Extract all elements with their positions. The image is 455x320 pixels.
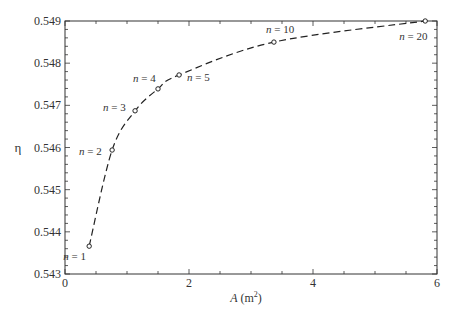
data-point-marker (87, 244, 91, 248)
point-annotation: n = 4 (133, 72, 156, 84)
x-tick-label: 0 (62, 276, 68, 290)
x-tick-label: 6 (434, 276, 440, 290)
point-annotation: n = 2 (79, 145, 102, 157)
axis-ticks (65, 21, 437, 274)
efficiency-curve (89, 21, 425, 246)
data-point-markers (87, 19, 427, 249)
point-annotation: n = 3 (103, 101, 126, 113)
y-tick-label: 0.548 (34, 56, 61, 70)
point-annotations: n = 1n = 2n = 3n = 4n = 5n = 10n = 20 (63, 23, 428, 262)
y-tick-label: 0.545 (34, 183, 61, 197)
data-point-marker (133, 109, 137, 113)
y-tick-label: 0.543 (34, 267, 61, 281)
y-tick-label: 0.544 (34, 225, 61, 239)
x-tick-label: 2 (186, 276, 192, 290)
data-point-marker (110, 148, 114, 152)
x-axis-label-close: ) (258, 291, 262, 305)
plot-frame (65, 21, 437, 274)
x-axis-label-unit: (m (238, 291, 255, 305)
point-annotation: n = 1 (63, 250, 86, 262)
data-point-marker (177, 73, 181, 77)
y-tick-label: 0.549 (34, 14, 61, 28)
y-axis-label: η (15, 140, 22, 155)
data-point-marker (272, 40, 276, 44)
y-tick-label: 0.547 (34, 98, 61, 112)
point-annotation: n = 10 (266, 23, 295, 35)
y-tick-label: 0.546 (34, 141, 61, 155)
x-tick-label: 4 (310, 276, 316, 290)
data-point-marker (423, 19, 427, 23)
x-axis-label: A (m2) (229, 290, 262, 305)
point-annotation: n = 20 (399, 30, 428, 42)
efficiency-vs-area-chart: 02460.5430.5440.5450.5460.5470.5480.549 … (0, 0, 455, 320)
data-point-marker (156, 87, 160, 91)
point-annotation: n = 5 (187, 71, 210, 83)
plot-axes (65, 21, 437, 274)
